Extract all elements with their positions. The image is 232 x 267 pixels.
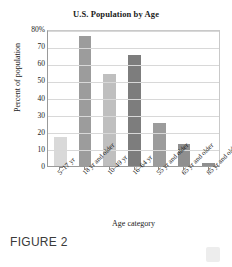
y-axis-tick-label: 50 — [38, 77, 46, 85]
bar — [153, 123, 166, 166]
y-axis-tick-label: 70 — [38, 43, 46, 51]
gridline — [48, 31, 219, 32]
gridline — [48, 150, 219, 151]
y-axis-title: Percent of population — [13, 22, 22, 134]
y-axis-tick-label: 0 — [41, 163, 45, 171]
figure-caption: FIGURE 2 — [10, 235, 68, 249]
gridline — [48, 133, 219, 134]
y-axis-tick-label: 40 — [38, 95, 46, 103]
chart-title: U.S. Population by Age — [0, 9, 232, 19]
corner-swatch — [206, 247, 220, 262]
bar — [128, 55, 141, 166]
gridline — [48, 82, 219, 83]
gridline — [48, 116, 219, 117]
bar — [79, 36, 92, 166]
y-axis-tick-label: 20 — [38, 129, 46, 137]
x-axis-title: Age category — [47, 219, 220, 228]
y-axis-tick-label: 60 — [38, 60, 46, 68]
plot-area — [47, 30, 220, 167]
y-axis-tick-label: 30 — [38, 112, 46, 120]
gridline — [48, 65, 219, 66]
y-axis-tick-label: 10 — [38, 146, 46, 154]
y-axis-tick-label: 80% — [31, 26, 45, 34]
gridline — [48, 99, 219, 100]
figure-container: U.S. Population by Age 80%70605040302010… — [0, 0, 232, 267]
gridline — [48, 48, 219, 49]
